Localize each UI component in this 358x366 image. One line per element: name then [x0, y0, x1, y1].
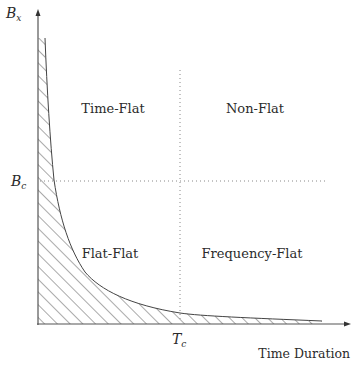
region-time-flat: Time-Flat: [81, 101, 145, 116]
x-axis-label: Time Duration: [258, 346, 350, 361]
y-axis-arrow-icon: [36, 9, 41, 16]
region-flat-flat: Flat-Flat: [82, 246, 139, 261]
tc-label: Tc: [172, 331, 186, 349]
channel-classification-diagram: Bx Bc Tc Time Duration Time-Flat Non-Fla…: [0, 0, 358, 366]
region-non-flat: Non-Flat: [226, 101, 285, 116]
x-axis-arrow-icon: [344, 322, 351, 327]
region-frequency-flat: Frequency-Flat: [202, 246, 304, 261]
bc-label: Bc: [10, 173, 26, 191]
y-axis-label: Bx: [5, 5, 21, 23]
